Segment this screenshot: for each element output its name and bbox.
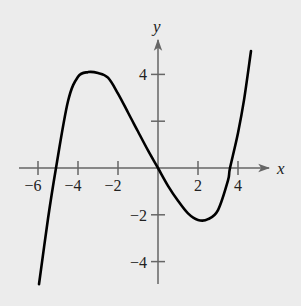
y-tick-label: −4 [130, 254, 147, 271]
x-axis-label: x [276, 159, 285, 178]
function-graph: −6−4−224 4−2−4 x y [0, 0, 301, 306]
x-tick-label: 4 [234, 177, 242, 194]
x-tick-label: −6 [24, 177, 41, 194]
x-tick-label: 2 [194, 177, 202, 194]
y-axis-label: y [151, 17, 161, 36]
x-tick-label: −4 [64, 177, 81, 194]
y-tick-label: 4 [139, 66, 147, 83]
x-tick-label: −2 [104, 177, 121, 194]
y-tick-label: −2 [130, 207, 147, 224]
